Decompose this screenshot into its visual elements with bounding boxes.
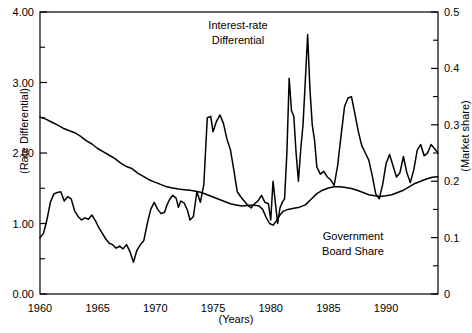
- interest-rate-differential-label-line2: Differential: [183, 33, 293, 48]
- right-tick-label: 0: [444, 288, 450, 300]
- right-tick-label: 0.4: [444, 62, 459, 74]
- government-board-share-label-line2: Board Share: [298, 244, 408, 259]
- left-tick-label: 1.00: [13, 218, 34, 230]
- right-tick-label: 0.2: [444, 175, 459, 187]
- line-chart-canvas: 0.001.002.003.004.00 00.10.20.30.40.5 19…: [0, 0, 472, 333]
- x-axis-title: (Years): [0, 313, 472, 325]
- left-tick-label: 0.00: [13, 288, 34, 300]
- right-tick-label: 0.5: [444, 6, 459, 18]
- right-tick-label: 0.1: [444, 232, 459, 244]
- series-line: [40, 117, 438, 225]
- left-axis-title: (Rate Differential): [18, 61, 30, 201]
- right-tick-label: 0.3: [444, 119, 459, 131]
- right-axis-title: (Market share): [459, 66, 471, 206]
- government-board-share-label: Government Board Share: [298, 229, 408, 259]
- chart-figure: 0.001.002.003.004.00 00.10.20.30.40.5 19…: [0, 0, 472, 333]
- government-board-share-label-line1: Government: [298, 229, 408, 244]
- left-tick-label: 4.00: [13, 6, 34, 18]
- interest-rate-differential-label-line1: Interest-rate: [183, 18, 293, 33]
- interest-rate-differential-label: Interest-rate Differential: [183, 18, 293, 48]
- right-axis-ticks: 00.10.20.30.40.5: [431, 6, 459, 300]
